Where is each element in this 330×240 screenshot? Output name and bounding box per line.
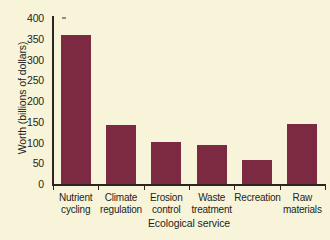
bar (197, 145, 227, 184)
bar (106, 125, 136, 184)
y-axis-tick-label: 200 (14, 95, 44, 107)
bar (287, 124, 317, 184)
y-axis-tick-labels: 050100150200250300350400 (14, 12, 44, 188)
x-axis-category-label: Climateregulation (98, 192, 143, 215)
x-axis-tick-mark (280, 185, 281, 190)
x-axis-title: Ecological service (53, 217, 325, 229)
bar (151, 142, 181, 184)
y-axis-tick-label: 150 (14, 116, 44, 128)
x-axis-category-label: Nutrientcycling (53, 192, 98, 215)
x-axis-tick-mark (98, 185, 99, 190)
y-axis-tick-label: 400 (14, 12, 44, 24)
x-axis-tick-mark (53, 185, 54, 190)
x-axis-category-label: Erosioncontrol (144, 192, 189, 215)
x-axis-category-label-line: Climate (98, 192, 143, 204)
y-axis-tick-label: 50 (14, 157, 44, 169)
bar-chart: Worth (billions of dollars) 050100150200… (0, 0, 330, 240)
x-axis-category-label-line: cycling (53, 204, 98, 216)
x-axis-category-label-line: regulation (98, 204, 143, 216)
x-axis-category-label: Wastetreatment (189, 192, 234, 215)
y-axis-tick-label: 250 (14, 74, 44, 86)
plot-area (53, 18, 325, 184)
y-axis-tick-label: 350 (14, 33, 44, 45)
x-axis-tick-mark (325, 185, 326, 190)
y-axis-tick-label: 300 (14, 54, 44, 66)
y-axis-tick-label: 0 (14, 178, 44, 190)
x-axis-category-label-line: Raw (280, 192, 325, 204)
x-axis-tick-mark (234, 185, 235, 190)
x-axis-category-label-line: materials (280, 204, 325, 216)
x-axis-category-label-line: Waste (189, 192, 234, 204)
x-axis-category-label: Rawmaterials (280, 192, 325, 215)
x-axis-tick-mark (144, 185, 145, 190)
x-axis-category-label-line: control (144, 204, 189, 216)
bar (61, 35, 91, 184)
x-axis-tick-mark (189, 185, 190, 190)
x-axis-category-label: Recreation (234, 192, 279, 204)
x-axis-category-label-line: Erosion (144, 192, 189, 204)
x-axis-category-label-line: Recreation (234, 192, 279, 204)
x-axis-category-label-line: treatment (189, 204, 234, 216)
x-axis-category-label-line: Nutrient (53, 192, 98, 204)
y-axis-tick-label: 100 (14, 137, 44, 149)
bar (242, 160, 272, 184)
